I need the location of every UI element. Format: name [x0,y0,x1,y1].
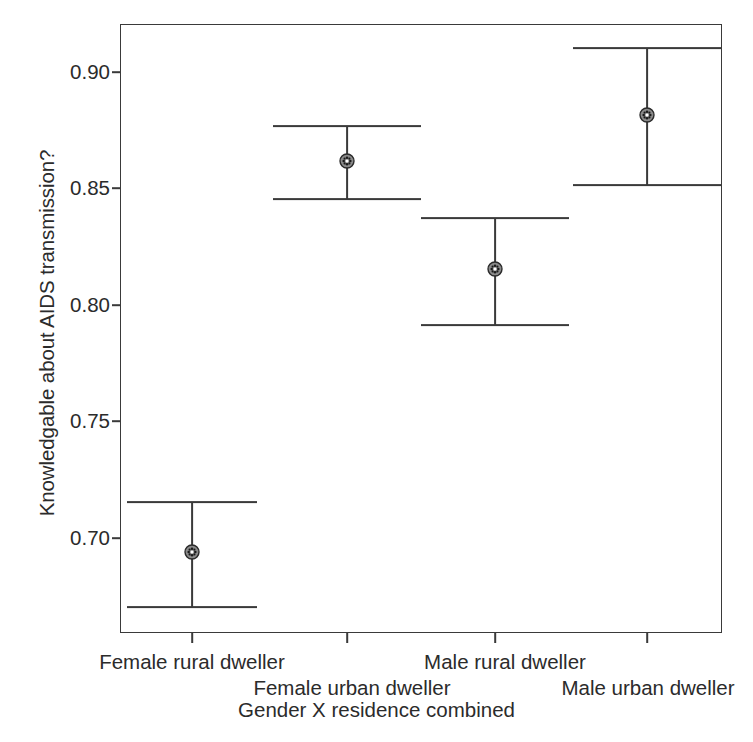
errorbar-lower-cap-3 [573,184,721,186]
y-tick-label-3: 0.75 [32,411,110,432]
y-tick-label-0: 0.90 [32,62,110,83]
data-point-marker-2 [487,261,504,278]
x-tick-mark-1 [346,633,348,643]
errorbar-lower-cap-2 [421,324,569,326]
x-axis-title: Gender X residence combined [0,700,753,721]
x-tick-mark-3 [646,633,648,643]
x-axis-label-male-rural-dweller: Male rural dweller [424,652,586,673]
y-tick-label-1: 0.85 [32,178,110,199]
plot-area-frame [120,24,722,633]
data-point-marker-3 [639,107,656,124]
y-axis-tick-labels: 0.90 0.85 0.80 0.75 0.70 [20,0,110,742]
x-axis-label-female-urban-dweller: Female urban dweller [253,678,450,699]
errorbar-lower-cap-0 [127,606,257,608]
y-tick-label-4: 0.70 [32,528,110,549]
x-tick-mark-2 [494,633,496,643]
y-tick-label-2: 0.80 [32,295,110,316]
errorbar-lower-cap-1 [273,198,421,200]
errorbar-chart-figure: Knowledgable about AIDS transmission? 0.… [0,0,753,742]
x-tick-mark-0 [191,633,193,643]
data-point-marker-0 [184,544,201,561]
x-axis-label-female-rural-dweller: Female rural dweller [99,652,285,673]
x-axis-label-male-urban-dweller: Male urban dweller [561,678,734,699]
data-point-marker-1 [339,153,356,170]
